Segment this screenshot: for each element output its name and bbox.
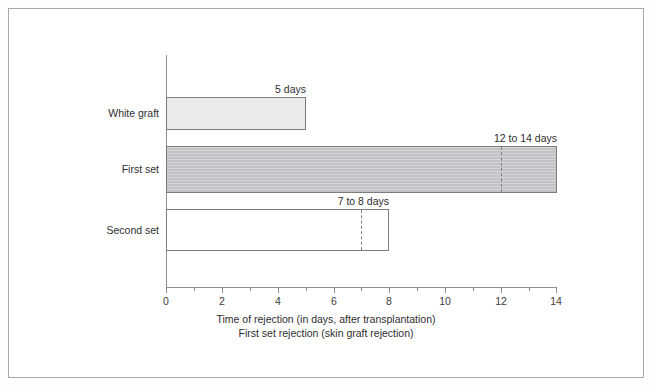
x-tick-label-2: 2 — [219, 295, 225, 307]
caption-line-1: Time of rejection (in days, after transp… — [17, 312, 635, 326]
x-tick-minor-3 — [250, 287, 251, 291]
figure-caption: Time of rejection (in days, after transp… — [17, 312, 635, 340]
category-label-second-set: Second set — [106, 224, 166, 236]
x-tick-label-4: 4 — [275, 295, 281, 307]
x-tick-label-0: 0 — [163, 295, 169, 307]
x-tick-minor-13 — [529, 287, 530, 291]
x-tick-major-8 — [389, 287, 390, 293]
figure-page: 0 2 4 6 8 10 12 14 White graft 5 days Fi… — [0, 0, 657, 389]
chart-plot-area: 0 2 4 6 8 10 12 14 White graft 5 days Fi… — [166, 55, 557, 287]
x-tick-minor-7 — [361, 287, 362, 291]
x-tick-minor-5 — [306, 287, 307, 291]
x-tick-minor-1 — [194, 287, 195, 291]
bar-first-set — [166, 146, 557, 193]
x-tick-minor-9 — [417, 287, 418, 291]
bar-white-graft — [166, 97, 306, 130]
bar-second-set — [166, 209, 389, 251]
x-tick-major-6 — [334, 287, 335, 293]
x-tick-label-8: 8 — [386, 295, 392, 307]
caption-line-2: First set rejection (skin graft rejectio… — [17, 326, 635, 340]
figure-frame: 0 2 4 6 8 10 12 14 White graft 5 days Fi… — [8, 8, 644, 378]
x-tick-label-12: 12 — [495, 295, 507, 307]
x-tick-label-10: 10 — [439, 295, 451, 307]
category-label-white-graft: White graft — [108, 107, 166, 119]
value-label-second-set: 7 to 8 days — [338, 195, 389, 209]
range-marker-second-set — [361, 210, 362, 250]
x-tick-label-6: 6 — [331, 295, 337, 307]
x-tick-major-12 — [501, 287, 502, 293]
range-marker-first-set — [501, 147, 502, 192]
value-label-white-graft: 5 days — [275, 83, 306, 97]
category-label-first-set: First set — [122, 163, 166, 175]
x-tick-major-14 — [556, 287, 557, 293]
x-tick-major-10 — [445, 287, 446, 293]
x-tick-label-14: 14 — [550, 295, 562, 307]
x-tick-minor-11 — [473, 287, 474, 291]
value-label-first-set: 12 to 14 days — [494, 132, 557, 146]
x-tick-major-2 — [222, 287, 223, 293]
x-tick-major-4 — [278, 287, 279, 293]
x-tick-major-0 — [166, 287, 167, 293]
